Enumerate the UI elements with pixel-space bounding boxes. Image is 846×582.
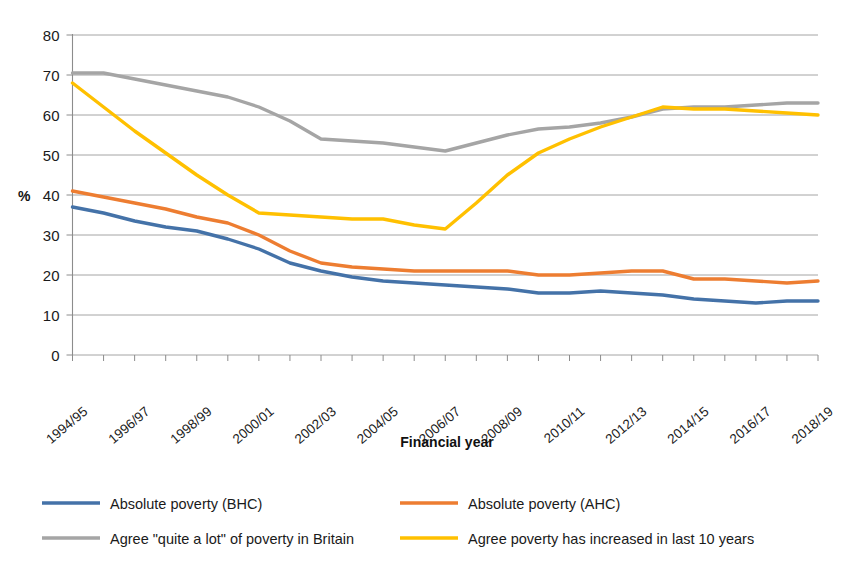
- x-axis-tick-label: 2016/17: [727, 404, 774, 447]
- x-axis-tick-label: 2004/05: [354, 404, 401, 447]
- y-axis-tick-label: 60: [43, 107, 60, 124]
- y-axis-tick-label: 70: [43, 67, 60, 84]
- y-axis-unit-label: %: [18, 188, 31, 204]
- y-axis-tick-label: 30: [43, 227, 60, 244]
- x-axis-tick-label: 2000/01: [230, 404, 277, 447]
- chart-legend: Absolute poverty (BHC)Absolute poverty (…: [42, 496, 754, 547]
- y-axis-tick-label: 80: [43, 27, 60, 44]
- series-line: [73, 191, 819, 283]
- y-axis-labels-group: 01020304050607080: [43, 27, 60, 364]
- y-axis-tick-label: 50: [43, 147, 60, 164]
- series-line: [73, 207, 819, 303]
- series-line: [73, 73, 819, 151]
- y-axis-tick-label: 20: [43, 267, 60, 284]
- data-series-group: [73, 73, 819, 303]
- y-axis-unit-text: %: [18, 188, 31, 204]
- poverty-trends-chart: 01020304050607080 1994/951996/971998/992…: [0, 0, 846, 582]
- x-axis-tick-label: 1998/99: [168, 404, 215, 447]
- x-axis-tick-label: 1996/97: [106, 404, 153, 447]
- x-axis-tick-label: 1994/95: [43, 404, 90, 447]
- x-axis-title: Financial year: [400, 434, 494, 450]
- series-line: [73, 83, 819, 229]
- y-axis-tick-label: 10: [43, 307, 60, 324]
- x-axis-tick-label: 2012/13: [603, 404, 650, 447]
- chart-canvas: 01020304050607080 1994/951996/971998/992…: [0, 0, 846, 582]
- x-axis-tick-label: 2002/03: [292, 404, 339, 447]
- y-axis-tick-label: 0: [51, 347, 59, 364]
- x-tickmarks-group: [73, 355, 819, 361]
- y-axis-tick-label: 40: [43, 187, 60, 204]
- x-axis-tick-label: 2018/19: [789, 404, 836, 447]
- x-axis-tick-label: 2010/11: [541, 404, 587, 446]
- gridlines-group: [73, 35, 819, 355]
- legend-entry-label: Absolute poverty (AHC): [468, 496, 620, 512]
- legend-entry-label: Agree poverty has increased in last 10 y…: [468, 531, 754, 547]
- x-axis-title-text: Financial year: [400, 434, 494, 450]
- legend-entry-label: Agree "quite a lot" of poverty in Britai…: [110, 531, 354, 547]
- legend-entry-label: Absolute poverty (BHC): [110, 496, 262, 512]
- x-axis-tick-label: 2014/15: [665, 404, 712, 447]
